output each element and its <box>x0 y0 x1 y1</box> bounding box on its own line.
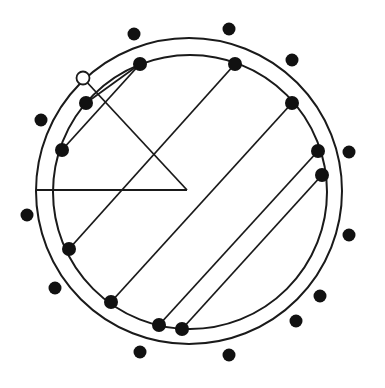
inner-dot <box>55 143 69 157</box>
circle-chord-diagram <box>0 0 385 388</box>
outer-dot <box>223 349 236 362</box>
inner-dot <box>62 242 76 256</box>
inner-dot <box>104 295 118 309</box>
inner-dot <box>175 322 189 336</box>
outer-dot <box>223 23 236 36</box>
inner-dot <box>152 318 166 332</box>
inner-dot <box>133 57 147 71</box>
outer-dot <box>128 28 141 41</box>
inner-dot <box>311 144 325 158</box>
outer-dot <box>290 315 303 328</box>
chord-line <box>69 64 235 249</box>
outer-dot <box>286 54 299 67</box>
outer-dot <box>35 114 48 127</box>
chord-line <box>159 151 318 325</box>
chord-line <box>182 175 322 329</box>
outer-dot <box>314 290 327 303</box>
outer-dots <box>21 23 356 362</box>
outer-dot <box>21 209 34 222</box>
inner-dot <box>315 168 329 182</box>
parallel-chords <box>62 64 322 329</box>
outer-dot <box>343 146 356 159</box>
inner-dot <box>228 57 242 71</box>
inner-dot <box>79 96 93 110</box>
outer-dot <box>134 346 147 359</box>
outer-dot <box>49 282 62 295</box>
outer-dot <box>343 229 356 242</box>
inner-circle-dots <box>55 57 329 336</box>
chord-line <box>111 103 292 302</box>
open-circle-marker <box>77 72 90 85</box>
open-circle <box>77 72 90 85</box>
chord-line <box>62 64 140 150</box>
inner-dot <box>285 96 299 110</box>
